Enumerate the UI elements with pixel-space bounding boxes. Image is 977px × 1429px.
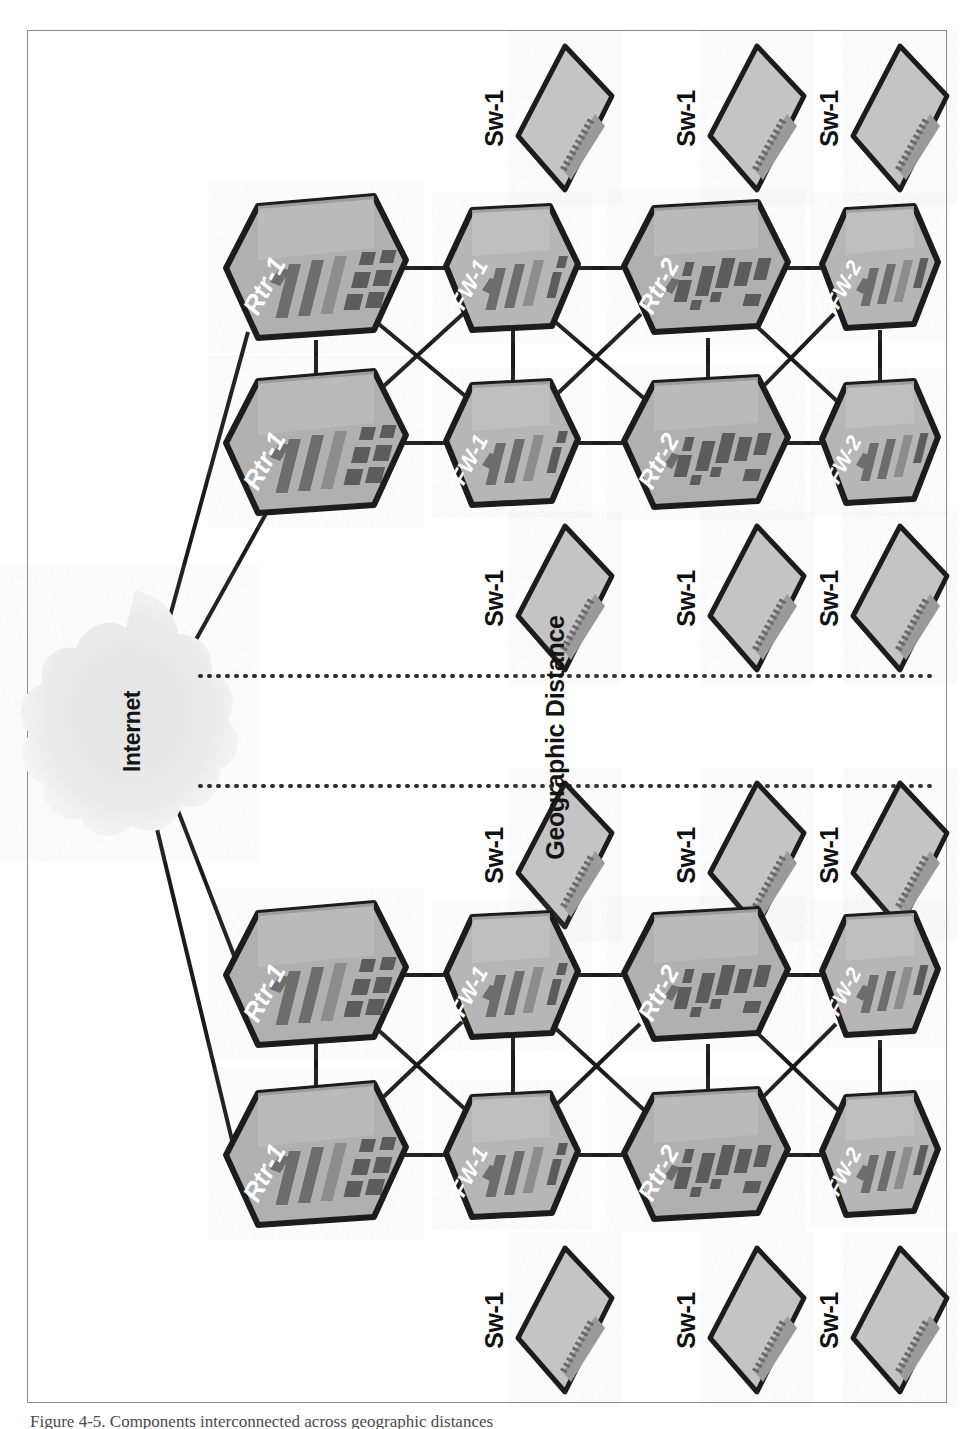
label-siteA-switch-outer-2: Sw-1	[672, 90, 701, 146]
label-siteA-switch-inner-3: Sw-1	[815, 570, 844, 626]
label-siteA-switch-outer-3: Sw-1	[815, 90, 844, 146]
label-siteB-switch-outer-3: Sw-1	[815, 1292, 844, 1348]
label-siteB-switch-inner-1: Sw-1	[480, 827, 509, 883]
internet-cloud-label: Internet	[119, 691, 146, 772]
label-siteA-switch-inner-2: Sw-1	[672, 570, 701, 626]
label-siteB-switch-outer-2: Sw-1	[672, 1292, 701, 1348]
label-siteA-switch-outer-1: Sw-1	[480, 90, 509, 146]
label-siteB-switch-inner-2: Sw-1	[672, 827, 701, 883]
geographic-distance-label: Geographic Distance	[541, 615, 570, 859]
label-siteA-switch-inner-1: Sw-1	[480, 570, 509, 626]
figure-caption: Figure 4-5. Components interconnected ac…	[30, 1412, 930, 1429]
network-topology-figure: Rtr-1 FW-1 Rtr-2 FW-2 Rtr-1 FW-1 Rtr-2 F…	[0, 0, 977, 1429]
label-siteB-switch-inner-3: Sw-1	[815, 827, 844, 883]
label-siteB-switch-outer-1: Sw-1	[480, 1292, 509, 1348]
figure-frame	[27, 30, 947, 1403]
